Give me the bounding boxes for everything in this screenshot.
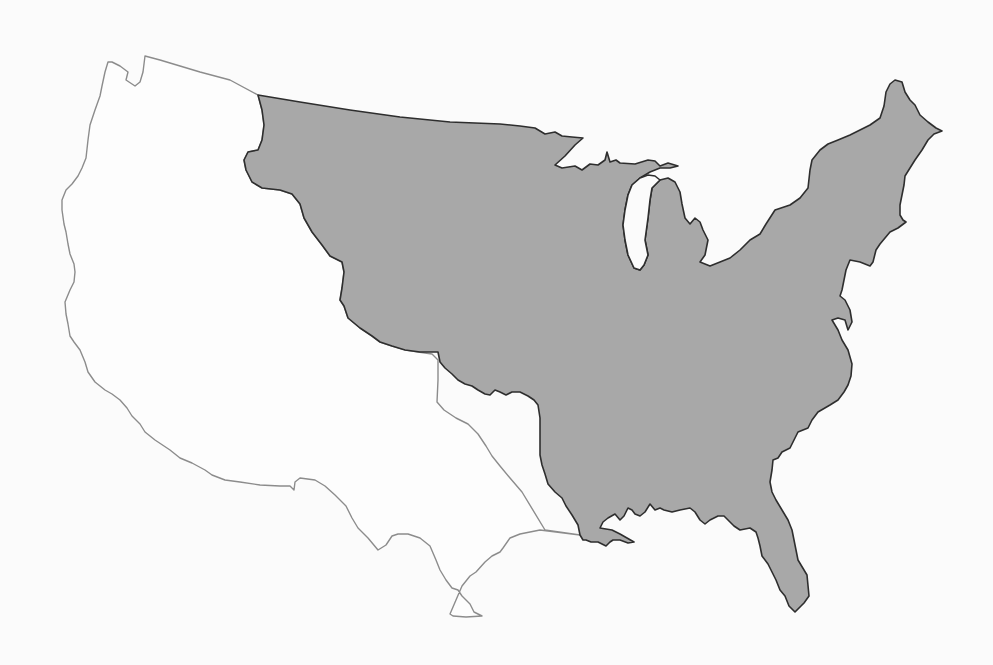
us-map (0, 0, 993, 665)
